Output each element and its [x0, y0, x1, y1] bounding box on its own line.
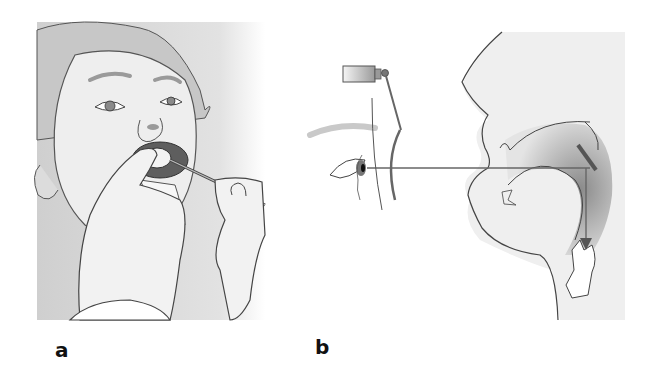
mirror-examination-front-view [0, 0, 300, 330]
panel-label-a: a [55, 338, 69, 362]
examiner-pupil [361, 164, 365, 172]
panel-a-illustration [0, 0, 300, 330]
mirror-arm [386, 76, 401, 130]
head-mirror-front [372, 98, 382, 210]
mirror-examination-side-view [300, 0, 646, 330]
head-lamp [343, 66, 375, 82]
panel-b-illustration [300, 0, 646, 330]
nostril [147, 124, 159, 130]
left-iris [105, 101, 115, 111]
head-mirror-back [391, 130, 400, 200]
panel-label-b: b [315, 335, 329, 359]
lamp-joint [382, 70, 389, 77]
right-iris [167, 97, 175, 105]
examiner-eyebrow [310, 126, 375, 135]
